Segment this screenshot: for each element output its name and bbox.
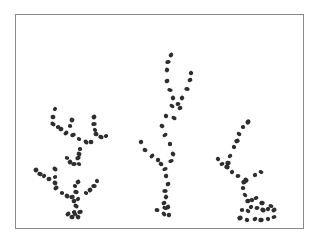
dot — [33, 167, 39, 173]
dot — [241, 186, 246, 191]
dot — [187, 77, 193, 83]
dot — [52, 175, 57, 180]
dot — [242, 192, 248, 198]
dot — [168, 142, 173, 147]
dot — [237, 215, 243, 221]
dot — [142, 147, 148, 152]
dot — [271, 215, 276, 220]
dot — [179, 95, 185, 101]
dot — [215, 156, 221, 162]
dot — [188, 70, 194, 76]
dot — [170, 151, 176, 157]
dot — [154, 208, 159, 213]
left-branching-structure — [33, 106, 109, 220]
dot — [167, 88, 173, 93]
dot — [73, 189, 79, 194]
dot — [175, 102, 180, 106]
dot — [98, 134, 105, 140]
dot — [161, 200, 167, 205]
dot — [234, 138, 241, 144]
dot — [163, 173, 169, 179]
dotted-branching-diagram — [0, 0, 315, 239]
dot — [184, 87, 190, 91]
dot — [93, 131, 99, 137]
dot — [225, 161, 231, 166]
dot — [166, 212, 171, 217]
dot — [254, 206, 259, 210]
dot — [156, 158, 161, 163]
dot — [75, 179, 81, 185]
dot — [162, 166, 168, 171]
dot — [231, 144, 236, 149]
dot — [258, 217, 264, 222]
dot — [91, 184, 97, 189]
dot — [63, 130, 70, 137]
dot — [76, 161, 82, 167]
dot — [52, 180, 58, 186]
dot — [241, 125, 246, 130]
dot — [71, 198, 76, 203]
dot — [165, 181, 171, 187]
dot — [248, 204, 254, 210]
dot — [88, 139, 93, 144]
dot — [244, 217, 250, 223]
dot — [76, 137, 81, 142]
dot — [78, 147, 83, 151]
dot — [235, 174, 240, 178]
dot — [91, 122, 97, 126]
dot — [168, 159, 174, 164]
dot — [252, 216, 258, 222]
dot — [219, 161, 225, 166]
dot — [53, 185, 60, 191]
dot — [60, 191, 65, 195]
dot — [163, 113, 169, 119]
dot — [50, 114, 55, 119]
dot — [162, 132, 169, 138]
dot — [259, 207, 266, 214]
dot — [170, 95, 176, 101]
dot — [91, 114, 98, 121]
dot — [164, 67, 170, 73]
dot — [171, 115, 178, 121]
dot — [94, 178, 100, 184]
dot — [259, 200, 265, 206]
dot — [50, 121, 57, 127]
dot — [64, 193, 71, 200]
dot — [252, 172, 257, 177]
dot — [236, 131, 242, 137]
middle-branching-structure — [138, 52, 194, 218]
dot — [169, 103, 176, 109]
dot — [258, 169, 264, 174]
dot — [64, 156, 69, 161]
dot — [265, 216, 271, 222]
dot — [229, 169, 235, 175]
dot — [103, 133, 109, 138]
dot — [47, 177, 52, 182]
dot — [83, 139, 90, 146]
right-branching-structure — [215, 118, 278, 222]
dot — [52, 106, 58, 112]
dot — [240, 208, 244, 212]
dot — [68, 124, 73, 128]
dot — [177, 106, 182, 111]
dot — [163, 194, 169, 200]
dot — [77, 209, 83, 215]
dot — [73, 203, 80, 209]
dot — [159, 123, 165, 129]
dot — [70, 132, 76, 138]
dot — [244, 118, 251, 125]
dot — [69, 117, 76, 124]
dot — [164, 78, 170, 84]
dot — [52, 166, 59, 173]
dot — [161, 211, 168, 217]
dot — [149, 153, 156, 159]
dot — [168, 52, 174, 58]
dot — [165, 60, 171, 65]
dot — [227, 153, 233, 159]
dot — [138, 139, 144, 145]
dot — [162, 189, 167, 193]
